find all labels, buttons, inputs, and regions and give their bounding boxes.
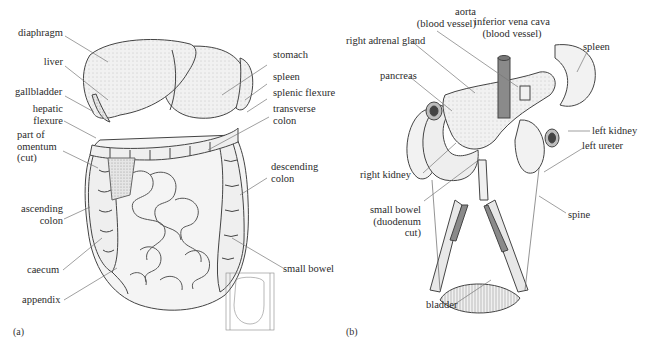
label-spleen-b: spleen [583,41,610,53]
label-transverse-colon: transverse colon [273,103,316,126]
anatomy-illustration [0,0,653,344]
label-left-kidney: left kidney [592,125,637,137]
label-bladder: bladder [426,299,458,311]
label-hepatic-flexure: hepatic flexure [18,103,63,126]
panel-b-drawing [407,45,595,313]
label-ascending-colon: ascending colon [15,203,63,226]
label-right-adrenal-gland: right adrenal gland [346,35,425,47]
label-spine: spine [568,209,590,221]
label-splenic-flexure: splenic flexure [273,87,335,99]
label-left-ureter: left ureter [582,140,623,152]
label-pancreas: pancreas [380,70,417,82]
label-stomach: stomach [273,49,308,61]
label-right-kidney: right kidney [360,169,411,181]
panel-tag-b: (b) [346,326,358,337]
label-liver: liver [30,56,63,68]
panel-a-drawing [83,39,252,310]
label-caecum: caecum [27,264,59,276]
label-gallbladder: gallbladder [15,86,62,98]
label-small-bowel-b: small bowel (duodenum cut) [355,204,421,239]
label-diaphragm: diaphragm [18,27,63,39]
label-spleen-a: spleen [273,71,300,83]
panel-tag-a: (a) [13,326,24,337]
label-appendix: appendix [22,294,61,306]
label-descending-colon: descending colon [271,161,318,184]
label-small-bowel-a: small bowel [283,263,334,275]
label-omentum: part of omentum (cut) [17,129,57,164]
label-inferior-vena-cava: inferior vena cava (blood vessel) [460,16,564,39]
